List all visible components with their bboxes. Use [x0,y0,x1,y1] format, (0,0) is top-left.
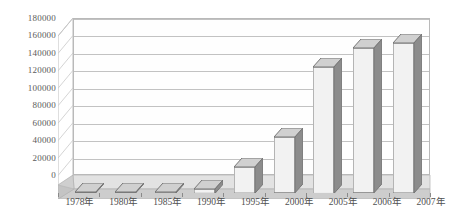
bar-column[interactable] [75,183,104,193]
bar-side-face [295,128,303,193]
bar-column[interactable] [115,183,144,193]
plot-area [58,18,445,193]
bar-column[interactable] [274,128,303,193]
bar-front-face [313,67,334,193]
y-axis-tick-label: 80000 [4,101,56,110]
y-axis-labels: 0200004000060000800001000001200001400001… [4,0,56,219]
bar-side-face [334,58,342,193]
bar-chart: 0200004000060000800001000001200001400001… [0,0,460,219]
x-axis-category-label: 1978年 [58,195,102,215]
x-axis-category-label: 2007年 [409,195,453,215]
bar-3d-shape [234,158,263,193]
bar-front-face [234,167,255,193]
bar-3d-shape [155,183,184,193]
y-axis-tick-label: 40000 [4,136,56,145]
x-axis-category-label: 1985年 [146,195,190,215]
x-axis-category-label: 1995年 [234,195,278,215]
bar-3d-shape [353,39,382,193]
bar-column[interactable] [393,34,422,193]
bar-3d-shape [393,34,422,193]
bar-column[interactable] [353,39,382,193]
bar-column[interactable] [194,180,223,193]
bar-column[interactable] [313,58,342,193]
y-axis-tick-label: 0 [4,171,56,180]
bar-front-face [353,48,374,193]
x-axis-category-label: 1990年 [190,195,234,215]
bars-layer [58,18,445,193]
bar-3d-shape [313,58,342,193]
x-axis-category-label: 2000年 [277,195,321,215]
y-axis-tick-label: 140000 [4,48,56,57]
x-axis-labels: 1978年1980年1985年1990年1995年2000年2005年2006年… [58,195,453,215]
y-axis-tick-label: 120000 [4,66,56,75]
y-axis-tick-label: 20000 [4,153,56,162]
y-axis-tick-label: 60000 [4,118,56,127]
bar-3d-shape [115,183,144,193]
y-axis-tick-label: 180000 [4,14,56,23]
y-axis-tick-label: 100000 [4,83,56,92]
x-axis-category-label: 1980年 [102,195,146,215]
bar-3d-shape [75,183,104,193]
x-axis-category-label: 2006年 [365,195,409,215]
bar-column[interactable] [234,158,263,193]
x-axis-category-label: 2005年 [321,195,365,215]
bar-front-face [393,43,414,193]
bar-side-face [414,34,422,193]
bar-3d-shape [194,180,223,193]
bar-3d-shape [274,128,303,193]
bar-side-face [374,39,382,193]
bar-column[interactable] [155,183,184,193]
y-axis-tick-label: 160000 [4,31,56,40]
bar-front-face [274,137,295,193]
